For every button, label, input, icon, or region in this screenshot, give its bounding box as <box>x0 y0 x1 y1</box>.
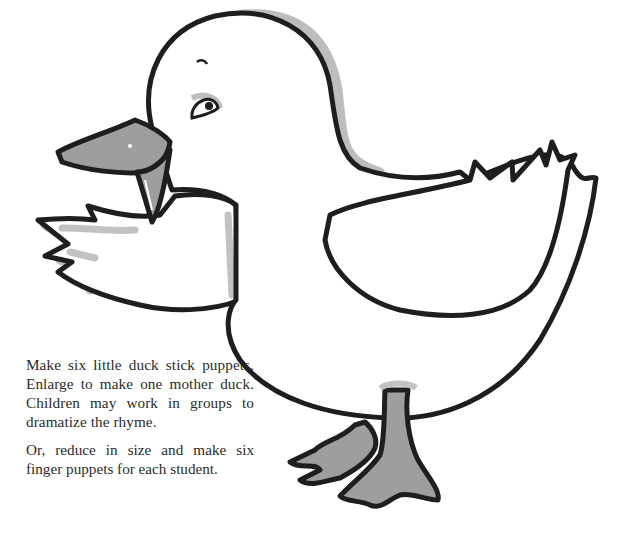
instructions-paragraph-1: Make six little duck stick puppets. Enla… <box>26 355 254 431</box>
beak <box>58 120 170 222</box>
left-wing <box>38 194 240 309</box>
instructions-paragraph-2: Or, reduce in size and make six finger p… <box>26 440 254 478</box>
instructions-text: Make six little duck stick puppets. Enla… <box>26 355 254 487</box>
